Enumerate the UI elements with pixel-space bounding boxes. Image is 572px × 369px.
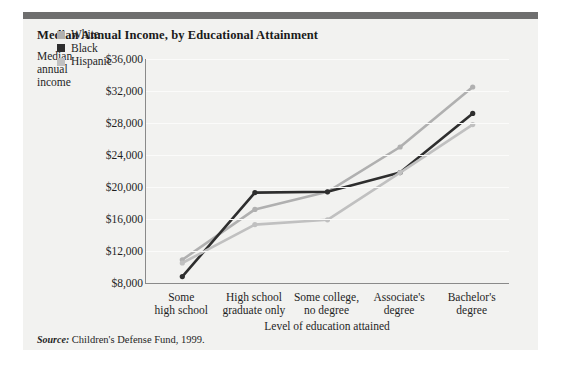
y-axis-tick-label: $16,000 [81, 213, 143, 225]
grid-line [146, 123, 509, 124]
grid-line [146, 155, 509, 156]
x-axis-tick-label: Somehigh school [155, 291, 208, 317]
x-axis-tick-label: Associate'sdegree [373, 291, 424, 317]
legend-label: White [71, 28, 99, 42]
source-text: Children's Defense Fund, 1999. [72, 334, 205, 345]
chart-lines [146, 59, 509, 283]
grid-line [146, 59, 509, 60]
source-label: Source: [37, 334, 69, 345]
x-axis-tick-label: Bachelor'sdegree [448, 291, 496, 317]
data-point [398, 144, 403, 149]
y-axis-tick-label: $8,000 [81, 277, 143, 289]
legend-swatch-icon [57, 31, 65, 39]
figure-panel: Median Annual Income, by Educational Att… [23, 12, 538, 350]
legend-item-hispanic: Hispanic [57, 55, 112, 69]
x-axis-tick-label: High schoolgraduate only [222, 291, 285, 317]
x-axis-tick-line: high school [155, 304, 208, 317]
legend-item-black: Black [57, 42, 112, 56]
grid-line [146, 187, 509, 188]
y-axis-tick-label: $28,000 [81, 117, 143, 129]
x-axis-tick-line: Associate's [373, 291, 424, 304]
legend-label: Hispanic [71, 55, 112, 69]
data-point [180, 260, 185, 265]
data-point [398, 170, 403, 175]
data-point [470, 111, 475, 116]
x-axis-tick-line: Some college, [294, 291, 359, 304]
x-axis-tick-line: degree [448, 304, 496, 317]
data-point [180, 274, 185, 279]
x-axis-tick-line: no degree [294, 304, 359, 317]
data-point [325, 189, 330, 194]
legend-item-white: White [57, 28, 112, 42]
data-point [252, 190, 257, 195]
series-line-black [182, 113, 472, 276]
x-axis-title: Level of education attained [264, 320, 389, 332]
plot-area [145, 59, 509, 284]
grid-line [146, 219, 509, 220]
legend-swatch-icon [57, 58, 65, 66]
x-axis-tick-line: degree [373, 304, 424, 317]
legend-label: Black [71, 42, 98, 56]
x-axis-tick-label: Some college,no degree [294, 291, 359, 317]
y-axis-tick-label: $32,000 [81, 85, 143, 97]
series-line-white [182, 87, 472, 260]
data-point [252, 222, 257, 227]
grid-line [146, 91, 509, 92]
y-axis-tick-label: $24,000 [81, 149, 143, 161]
chart-legend: WhiteBlackHispanic [57, 28, 112, 69]
y-axis-tick-label: $12,000 [81, 245, 143, 257]
y-axis-tick-label: $20,000 [81, 181, 143, 193]
legend-swatch-icon [57, 44, 65, 52]
x-axis-tick-line: Bachelor's [448, 291, 496, 304]
x-axis-tick-line: High school [222, 291, 285, 304]
x-axis-tick-line: Some [155, 291, 208, 304]
data-point [252, 207, 257, 212]
source-note: Source: Children's Defense Fund, 1999. [37, 334, 205, 345]
data-point [470, 84, 475, 89]
x-axis-tick-line: graduate only [222, 304, 285, 317]
grid-line [146, 251, 509, 252]
